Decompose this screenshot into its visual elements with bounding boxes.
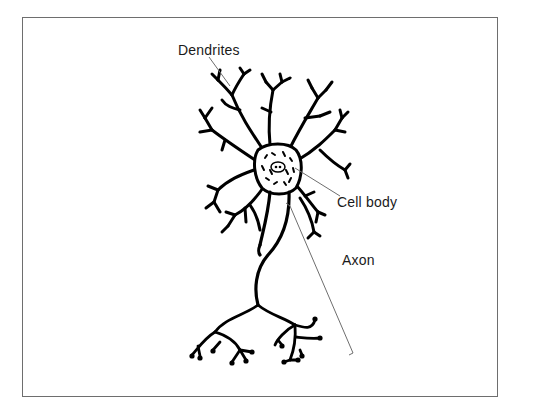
cell-body-label: Cell body xyxy=(337,194,397,210)
axon-label: Axon xyxy=(342,252,375,268)
dendrites-label: Dendrites xyxy=(178,42,240,58)
terminal-boutons xyxy=(189,316,322,365)
leader-lines xyxy=(209,57,353,355)
axon-terminals xyxy=(192,305,320,362)
axon-shape xyxy=(256,192,289,305)
